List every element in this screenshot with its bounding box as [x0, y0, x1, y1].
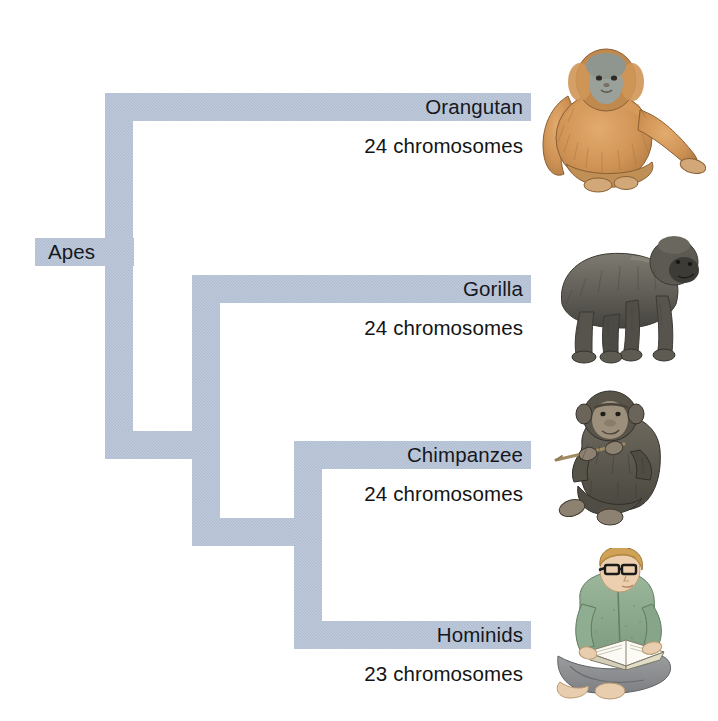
trunk-vertical-3	[294, 441, 322, 649]
cladogram-diagram: Apes Orangutan 24 chromosomes Gorilla 24…	[0, 0, 718, 721]
chromosome-count-orangutan: 24 chromosomes	[231, 133, 523, 159]
chromosome-count-gorilla: 24 chromosomes	[231, 315, 523, 341]
trunk-vertical-1	[105, 93, 133, 459]
chimpanzee-illustration	[548, 388, 700, 540]
chromosome-count-chimpanzee: 24 chromosomes	[231, 481, 523, 507]
root-label-apes: Apes	[48, 238, 128, 266]
chromosome-count-hominids: 23 chromosomes	[231, 661, 523, 687]
leaf-label-gorilla: Gorilla	[231, 275, 523, 303]
leaf-label-orangutan: Orangutan	[231, 93, 523, 121]
human-illustration	[552, 548, 702, 706]
leaf-label-chimpanzee: Chimpanzee	[231, 441, 523, 469]
orangutan-illustration	[528, 38, 706, 200]
trunk-vertical-2	[192, 275, 220, 546]
gorilla-illustration	[528, 212, 706, 370]
leaf-label-hominids: Hominids	[231, 621, 523, 649]
